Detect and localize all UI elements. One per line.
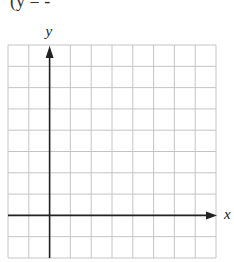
x-axis-arrow-icon <box>206 211 217 219</box>
grid-lines <box>8 45 216 258</box>
x-axis-label: x <box>223 206 231 222</box>
coordinate-grid: x y <box>0 0 234 262</box>
y-axis-arrow-icon <box>46 46 54 58</box>
y-axis-label: y <box>44 23 53 39</box>
